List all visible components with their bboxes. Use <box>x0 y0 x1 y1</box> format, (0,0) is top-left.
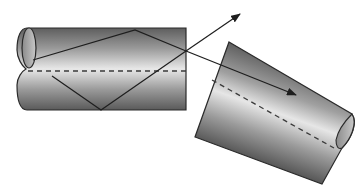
output-fiber-body <box>195 42 354 184</box>
output-fiber <box>195 42 354 184</box>
input-fiber-end-face <box>22 28 36 68</box>
fiber-misalignment-diagram <box>0 0 364 187</box>
